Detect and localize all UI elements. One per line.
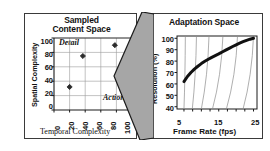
sampled-content-space-panel: Sampled Content Space 100 80 60 40 20 0 … <box>24 13 137 139</box>
figure-root: Sampled Content Space 100 80 60 40 20 0 … <box>0 0 270 151</box>
adaptation-space-panel: Adaptation Space 100 90 80 70 60 50 40 R… <box>143 13 263 139</box>
left-plot-area <box>25 14 138 140</box>
right-plot-area <box>144 14 264 140</box>
